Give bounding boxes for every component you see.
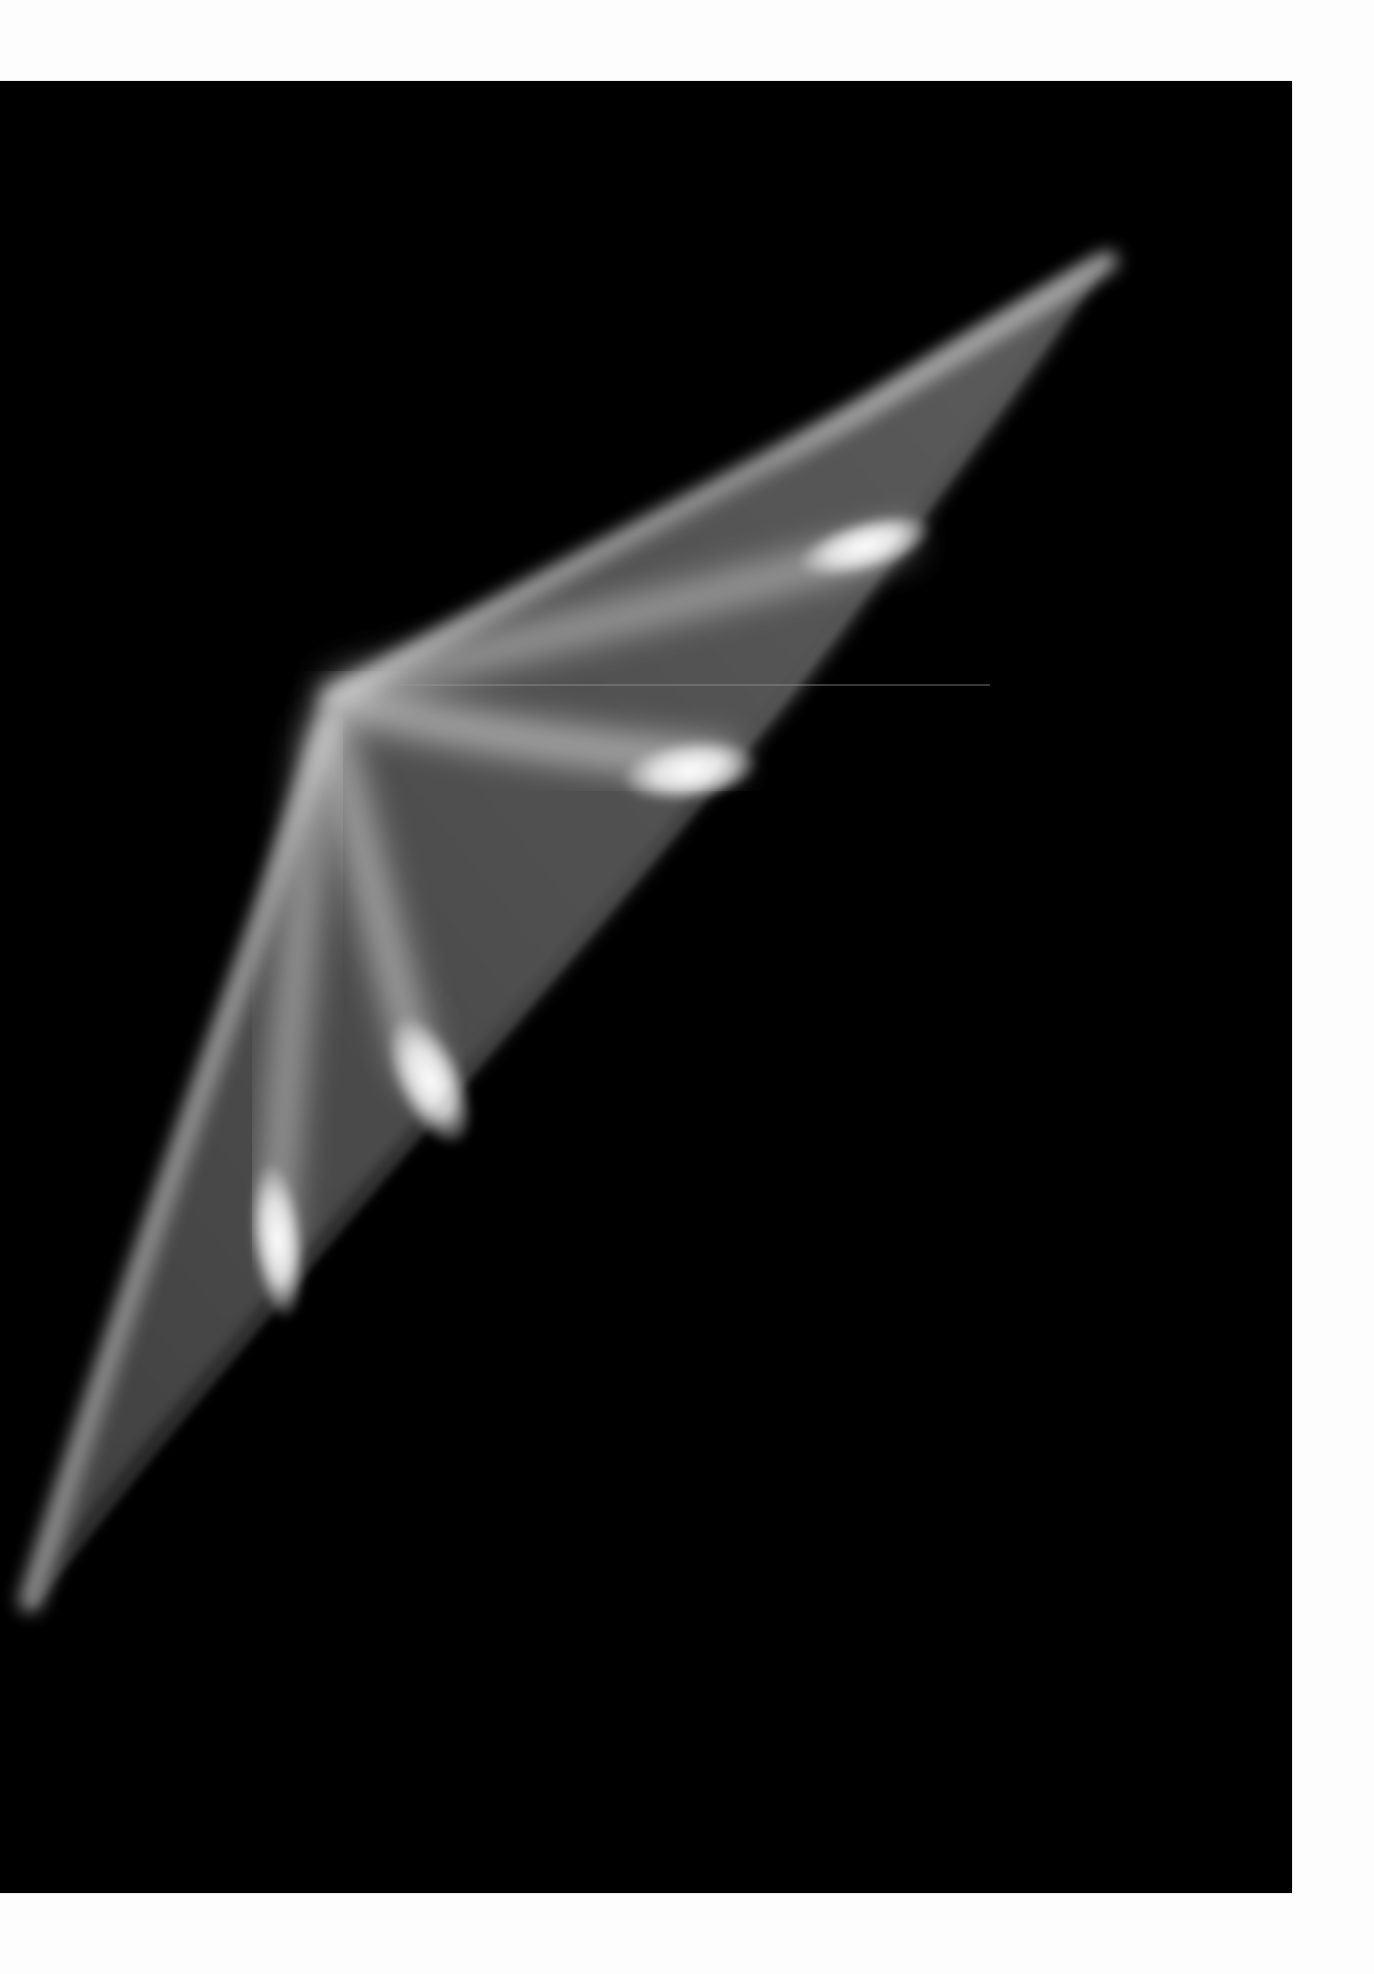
photograph [0, 81, 1292, 1893]
page [0, 0, 1374, 1974]
light-streaks [0, 81, 1292, 1893]
